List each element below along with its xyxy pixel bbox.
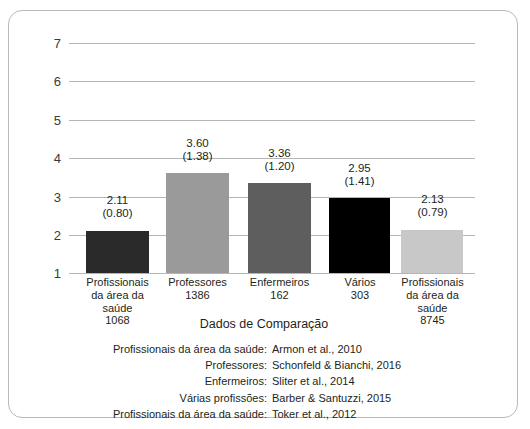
legend-row: Professores: Schonfeld & Bianchi, 2016: [9, 357, 519, 373]
bar-sd-5: (0.79): [396, 206, 469, 219]
category-line: Professores: [154, 276, 241, 289]
legend-source: Barber & Santuzzi, 2015: [272, 390, 391, 406]
bar-label-3: 3.36 (1.20): [243, 147, 316, 172]
bar-mean-3: 3.36: [243, 147, 316, 160]
legend-source: Toker et al., 2012: [272, 406, 356, 422]
category-line: da área da: [71, 289, 164, 302]
bar-mean-4: 2.95: [323, 162, 396, 175]
category-line: Profissionais: [71, 276, 164, 289]
legend-source: Sliter et al., 2014: [272, 373, 355, 389]
bar-varios[interactable]: [329, 198, 390, 273]
bar-label-4: 2.95 (1.41): [323, 162, 396, 187]
comparison-sources-legend: Profissionais da área da saúde: Armon et…: [9, 341, 519, 422]
plot-area: 7 6 5 4 3 2 1 2.11 (0.80) 3.60 (1.38): [9, 11, 519, 419]
bar-label-1: 2.11 (0.80): [81, 194, 154, 219]
category-label-3: Enfermeiros 162: [237, 276, 322, 302]
legend-source: Armon et al., 2010: [272, 341, 362, 357]
bar-mean-1: 2.11: [81, 194, 154, 207]
category-label-2: Professores 1386: [154, 276, 241, 302]
bar-profissionais-saude-8745[interactable]: [401, 230, 463, 273]
legend-label: Profissionais da área da saúde:: [9, 406, 272, 422]
bar-label-5: 2.13 (0.79): [396, 193, 469, 218]
category-line: da área da: [386, 289, 479, 302]
bar-sd-1: (0.80): [81, 207, 154, 220]
legend-label: Enfermeiros:: [9, 373, 272, 389]
legend-source: Schonfeld & Bianchi, 2016: [272, 357, 401, 373]
legend-label: Professores:: [9, 357, 272, 373]
category-line: Enfermeiros: [237, 276, 322, 289]
legend-row: Profissionais da área da saúde: Toker et…: [9, 406, 519, 422]
category-line: saúde: [71, 302, 164, 315]
legend-label: Profissionais da área da saúde:: [9, 341, 272, 357]
bar-professores[interactable]: [166, 173, 229, 273]
bar-sd-4: (1.41): [323, 175, 396, 188]
bar-sd-3: (1.20): [243, 160, 316, 173]
caption-title: Dados de Comparação: [9, 317, 519, 331]
bar-profissionais-saude-1068[interactable]: [86, 231, 149, 273]
bar-label-2: 3.60 (1.38): [161, 137, 234, 162]
category-sample-size: 162: [237, 289, 322, 302]
legend-label: Várias profissões:: [9, 390, 272, 406]
legend-row: Várias profissões: Barber & Santuzzi, 20…: [9, 390, 519, 406]
bar-mean-2: 3.60: [161, 137, 234, 150]
bar-sd-2: (1.38): [161, 150, 234, 163]
legend-row: Profissionais da área da saúde: Armon et…: [9, 341, 519, 357]
bar-mean-5: 2.13: [396, 193, 469, 206]
category-line: saúde: [386, 302, 479, 315]
bar-enfermeiros[interactable]: [248, 183, 311, 273]
category-sample-size: 1386: [154, 289, 241, 302]
legend-row: Enfermeiros: Sliter et al., 2014: [9, 373, 519, 389]
category-line: Profissionais: [386, 276, 479, 289]
chart-figure: 7 6 5 4 3 2 1 2.11 (0.80) 3.60 (1.38): [8, 10, 518, 418]
